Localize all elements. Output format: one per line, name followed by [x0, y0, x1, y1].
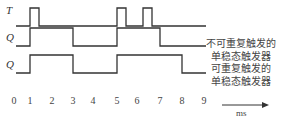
tick-8: 8: [180, 95, 185, 106]
signal-label-t: T: [6, 4, 12, 16]
tick-0: 0: [12, 95, 17, 106]
tick-5: 5: [115, 95, 120, 106]
signal-label-q1: Q: [6, 31, 14, 43]
waveform-t: [16, 8, 206, 26]
caption-line-1: 可重复触发的: [196, 62, 286, 75]
tick-7: 7: [158, 95, 163, 106]
waveform-q-non-retriggerable: [16, 28, 206, 46]
signal-label-q2: Q: [6, 58, 14, 70]
caption-line-2: 单稳态触发器: [196, 75, 286, 88]
caption-line-1: 不可重复触发的: [196, 37, 286, 50]
tick-9: 9: [202, 95, 207, 106]
tick-1: 1: [28, 95, 33, 106]
time-unit-label: ms: [236, 108, 247, 118]
tick-2: 2: [50, 95, 55, 106]
caption-non-retriggerable: 不可重复触发的 单稳态触发器: [196, 37, 286, 63]
waveform-q-retriggerable: [16, 55, 206, 73]
tick-3: 3: [71, 95, 76, 106]
arrow-head-icon: [262, 102, 269, 108]
tick-6: 6: [135, 95, 140, 106]
caption-retriggerable: 可重复触发的 单稳态触发器: [196, 62, 286, 88]
tick-4: 4: [91, 95, 96, 106]
